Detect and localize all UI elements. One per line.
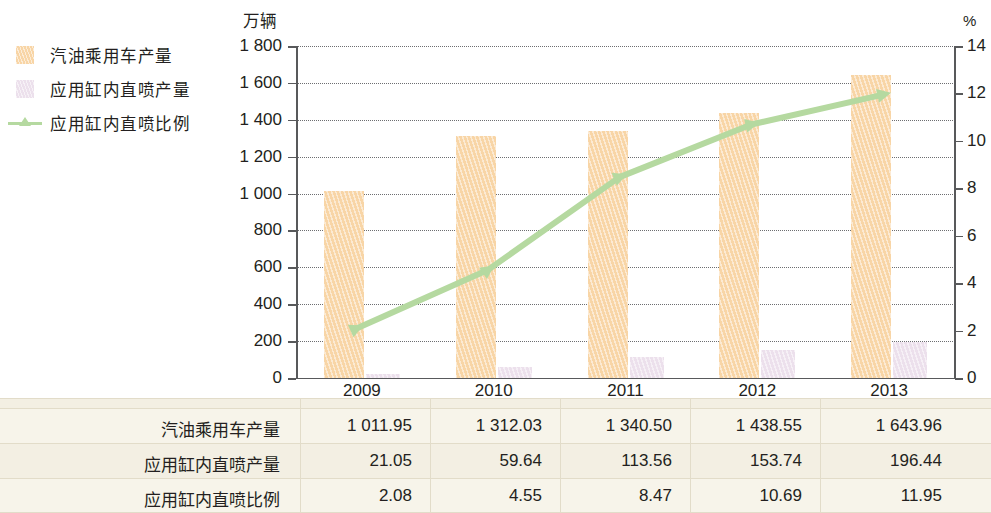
axis-tick — [955, 378, 963, 380]
axis-tick — [288, 341, 296, 343]
ratio-data-point-marker — [348, 325, 363, 338]
axis-tick-label: 12 — [967, 83, 986, 103]
axis-tick-label: 14 — [967, 36, 986, 56]
axis-tick-label: 800 — [254, 220, 282, 240]
chart-area: 万辆 % 1 8001 6001 4001 2001 0008006004002… — [0, 0, 991, 398]
table-row-divider — [0, 408, 991, 409]
table-cell: 113.56 — [560, 451, 672, 471]
table-cell: 59.64 — [430, 451, 542, 471]
table-cell: 1 643.96 — [820, 416, 942, 436]
axis-tick-label: 0 — [273, 368, 282, 388]
axis-tick — [955, 93, 963, 95]
axis-tick-label: 1 600 — [239, 73, 282, 93]
table-cell: 1 312.03 — [430, 416, 542, 436]
axis-tick — [288, 194, 296, 196]
axis-tick-label: 8 — [967, 178, 976, 198]
axis-tick-label: 200 — [254, 331, 282, 351]
axis-tick-label: 600 — [254, 257, 282, 277]
left-axis-tick-labels: 1 8001 6001 4001 2001 0008006004002000 — [178, 46, 282, 378]
table-cell: 10.69 — [690, 486, 802, 506]
axis-tick — [288, 230, 296, 232]
axis-tick-label: 2 — [967, 321, 976, 341]
axis-tick — [955, 141, 963, 143]
left-axis-title: 万辆 — [243, 8, 277, 32]
axis-tick-label: 400 — [254, 294, 282, 314]
table-row-label: 汽油乘用车产量 — [60, 416, 280, 441]
axis-tick — [288, 46, 296, 48]
table-row-label: 应用缸内直喷产量 — [60, 451, 280, 476]
table-cell: 1 438.55 — [690, 416, 802, 436]
axis-tick — [288, 83, 296, 85]
table-cell: 153.74 — [690, 451, 802, 471]
ratio-line-series — [296, 46, 955, 378]
axis-tick-label: 10 — [967, 131, 986, 151]
table-cell: 1 011.95 — [300, 416, 412, 436]
axis-tick — [955, 283, 963, 285]
axis-tick-label: 1 400 — [239, 110, 282, 130]
table-cell: 8.47 — [560, 486, 672, 506]
axis-tick — [955, 331, 963, 333]
table-cell: 1 340.50 — [560, 416, 672, 436]
axis-tick-label: 1 800 — [239, 36, 282, 56]
axis-tick — [288, 267, 296, 269]
table-cell: 21.05 — [300, 451, 412, 471]
axis-tick-label: 1 000 — [239, 184, 282, 204]
table-cell: 196.44 — [820, 451, 942, 471]
axis-tick — [955, 188, 963, 190]
axis-tick — [955, 236, 963, 238]
axis-tick — [288, 157, 296, 159]
ratio-data-point-marker — [876, 89, 891, 103]
table-cell: 4.55 — [430, 486, 542, 506]
axis-tick-label: 0 — [967, 368, 976, 388]
axis-tick-label: 1 200 — [239, 147, 282, 167]
table-row-label: 应用缸内直喷比例 — [60, 486, 280, 511]
table-row-divider — [0, 443, 991, 444]
right-axis-tick-labels: 14121086420 — [967, 46, 991, 378]
table-row-divider — [0, 478, 991, 479]
table-row-divider — [0, 398, 991, 399]
table-cell: 2.08 — [300, 486, 412, 506]
axis-tick — [288, 120, 296, 122]
table-cell: 11.95 — [820, 486, 942, 506]
axis-tick — [288, 378, 296, 380]
right-axis-title: % — [963, 12, 976, 29]
axis-tick-label: 4 — [967, 273, 976, 293]
data-table: 汽油乘用车产量1 011.951 312.031 340.501 438.551… — [0, 398, 991, 512]
axis-tick — [955, 46, 963, 48]
axis-tick-label: 6 — [967, 226, 976, 246]
axis-tick — [288, 304, 296, 306]
ratio-line — [356, 95, 883, 329]
